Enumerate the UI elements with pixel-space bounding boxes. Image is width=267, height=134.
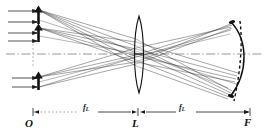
incoming-parallel-rays	[8, 9, 37, 88]
figure-root: O L F fL fL	[0, 0, 267, 134]
label-object-point: O	[25, 118, 33, 129]
optical-ray-diagram	[0, 0, 267, 134]
image-endpoint-markers	[228, 19, 236, 98]
label-focal-plane: F	[244, 117, 251, 128]
distance-1-subscript: L	[86, 106, 89, 112]
distance-scale	[33, 108, 250, 116]
label-distance-2: fL	[179, 104, 185, 112]
biconvex-lens	[134, 16, 144, 93]
curved-image-surface	[230, 22, 244, 97]
label-distance-1: fL	[83, 104, 89, 112]
distance-2-subscript: L	[182, 106, 185, 112]
label-lens: L	[132, 118, 139, 129]
